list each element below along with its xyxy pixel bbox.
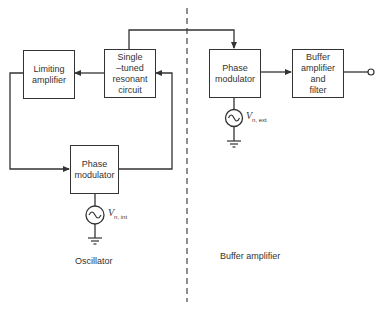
phase-mod-ext-label-1: Phase (215, 63, 255, 74)
output-terminal (368, 69, 374, 75)
limiting-amplifier-label-2: amplifier (32, 75, 66, 86)
source-int-subscript: n, int (114, 214, 127, 220)
resonant-label-1: Single (112, 52, 147, 63)
limiting-amplifier-label-1: Limiting (32, 64, 66, 75)
buffer-label-2: amplifier (301, 63, 335, 74)
wire-oscillator-to-ext-phase-mod (129, 30, 234, 49)
ground-ext-icon (227, 141, 241, 147)
limiting-amplifier-block: Limiting amplifier (23, 50, 75, 99)
resonant-circuit-block: Single –tuned resonant circuit (104, 49, 156, 98)
buffer-section-label: Buffer amplifier (220, 251, 280, 261)
buffer-label-3: and (301, 74, 335, 85)
phase-modulator-int-block: Phase modulator (70, 145, 119, 194)
buffer-label-1: Buffer (301, 52, 335, 63)
buffer-filter-block: Buffer amplifier and filter (292, 49, 344, 98)
ac-source-int-icon (86, 193, 104, 238)
ground-int-icon (88, 238, 102, 244)
ac-source-ext-icon (226, 97, 243, 141)
wiring-layer (0, 0, 383, 310)
resonant-label-4: circuit (112, 85, 147, 96)
buffer-label-4: filter (301, 85, 335, 96)
resonant-label-3: resonant (112, 74, 147, 85)
source-ext-label: Vn, ext (246, 110, 267, 123)
phase-mod-int-label-1: Phase (74, 159, 114, 170)
phase-mod-ext-label-2: modulator (215, 74, 255, 85)
source-ext-subscript: n, ext (252, 117, 267, 123)
resonant-label-2: –tuned (112, 63, 147, 74)
source-int-label: Vn, int (108, 207, 127, 220)
phase-modulator-ext-block: Phase modulator (209, 49, 261, 98)
phase-mod-int-label-2: modulator (74, 170, 114, 181)
oscillator-section-label: Oscillator (75, 256, 113, 266)
